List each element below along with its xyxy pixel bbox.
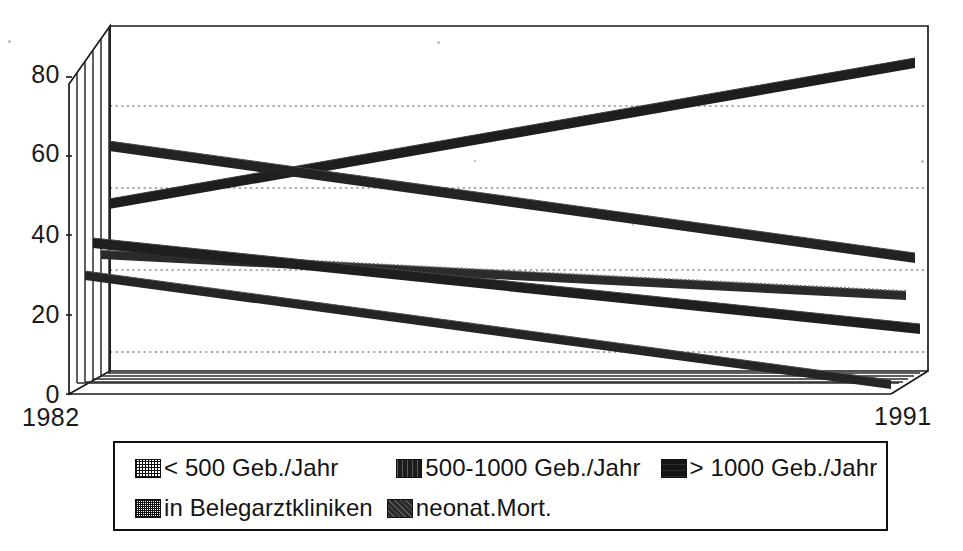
left-wall-depth-ribs [77, 27, 109, 383]
x-axis-label-1982: 1982 [22, 405, 80, 430]
scan-speck [8, 40, 11, 43]
legend-item-belegarztkliniken[interactable]: in Belegarztkliniken [135, 496, 373, 520]
chart-legend: < 500 Geb./Jahr 500-1000 Geb./Jahr > 100… [113, 441, 888, 531]
legend-swatch-icon-belegarztkliniken [135, 499, 161, 518]
legend-item-lt-500[interactable]: < 500 Geb./Jahr [135, 456, 338, 480]
legend-swatch-icon-neonat-mort [387, 499, 413, 518]
legend-swatch-icon-gt-1000 [661, 459, 687, 478]
y-axis-label-40: 40 [0, 222, 60, 247]
legend-label-gt-1000: > 1000 Geb./Jahr [690, 456, 878, 480]
legend-item-500-1000[interactable]: 500-1000 Geb./Jahr [396, 456, 640, 480]
left-depth-wall [69, 26, 110, 394]
legend-label-lt-500: < 500 Geb./Jahr [164, 456, 338, 480]
chart-container: 80 60 40 20 0 1982 1991 < 500 Geb./Jahr … [0, 0, 963, 551]
legend-swatch-icon-500-1000 [396, 459, 422, 478]
y-axis-label-60: 60 [0, 141, 60, 166]
y-axis-label-20: 20 [0, 302, 60, 327]
scan-speck [437, 41, 440, 44]
x-axis-label-1991: 1991 [874, 404, 932, 429]
scan-speck [921, 160, 924, 163]
legend-item-gt-1000[interactable]: > 1000 Geb./Jahr [661, 456, 878, 480]
series-ribbon-gt-1000 [109, 58, 915, 209]
legend-item-neonat-mort[interactable]: neonat.Mort. [387, 496, 552, 520]
legend-label-neonat-mort: neonat.Mort. [416, 496, 552, 520]
legend-row-2: in Belegarztkliniken neonat.Mort. [115, 488, 886, 528]
legend-label-500-1000: 500-1000 Geb./Jahr [425, 456, 640, 480]
scan-speck [632, 224, 634, 226]
legend-swatch-icon-lt-500 [135, 459, 161, 478]
y-axis-label-80: 80 [0, 62, 60, 87]
scan-speck [474, 160, 476, 162]
legend-label-belegarztkliniken: in Belegarztkliniken [164, 496, 373, 520]
series-ribbon-lt-500 [109, 141, 915, 263]
legend-row-1: < 500 Geb./Jahr 500-1000 Geb./Jahr > 100… [115, 448, 886, 488]
